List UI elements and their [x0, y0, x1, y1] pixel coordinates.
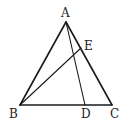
segments-group [20, 22, 112, 105]
vertex-label-c: C [110, 107, 119, 121]
vertex-label-a: A [60, 6, 70, 20]
vertex-label-b: B [9, 107, 18, 121]
point-label-e: E [84, 39, 93, 53]
segment-be [20, 48, 81, 105]
segment-ac [66, 22, 112, 105]
segment-ab [20, 22, 66, 105]
segment-ad [66, 22, 85, 105]
point-label-d: D [81, 107, 91, 121]
triangle-diagram: A B C D E [0, 0, 125, 126]
